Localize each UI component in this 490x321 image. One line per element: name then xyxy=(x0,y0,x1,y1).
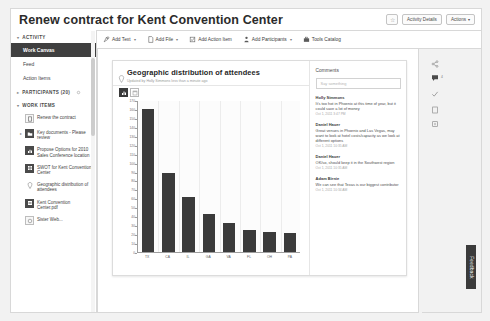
x-axis-tick-label: CA xyxy=(157,255,177,259)
chart-title: Geographic distribution of attendees xyxy=(127,68,303,77)
chart-bar[interactable] xyxy=(203,214,216,252)
chart-gridline xyxy=(281,101,282,252)
x-axis-tick-label: GA xyxy=(198,255,218,259)
comment-body: OK/so, should keep it in the Southwest r… xyxy=(316,160,401,165)
comment-author[interactable]: Daniel Hauer xyxy=(316,122,401,127)
work-item-row[interactable]: Kent Convention Center.pdf xyxy=(11,196,96,213)
sidebar-item-feed[interactable]: Feed xyxy=(11,57,96,71)
chart-bar[interactable] xyxy=(182,197,195,252)
divider xyxy=(113,85,310,86)
comment-input[interactable]: Say something xyxy=(316,78,401,89)
work-item-label: Propose Options for 2010 Sales Conferenc… xyxy=(37,146,92,157)
comment-icon[interactable] xyxy=(430,73,439,82)
chart-bar[interactable] xyxy=(243,230,256,252)
work-item-label: SWOT for Kent Convention Center xyxy=(37,164,92,175)
share-icon[interactable] xyxy=(430,59,439,68)
chart-bar[interactable] xyxy=(142,109,155,252)
chart-bar[interactable] xyxy=(284,233,297,252)
sidebar-section-work-items-label: WORK ITEMS xyxy=(22,103,55,108)
gear-icon[interactable] xyxy=(76,90,81,95)
work-item-row[interactable]: SWOT for Kent Convention Center xyxy=(11,161,96,178)
chart-card-header: Geographic distribution of attendees Upd… xyxy=(113,61,309,85)
chart-gridline xyxy=(199,101,200,252)
chart-bar-slot xyxy=(199,101,219,252)
bar-chart: 0102030405060708090100110120130140150160… xyxy=(119,99,304,271)
y-axis-tick-label: 30 xyxy=(131,224,135,228)
comment-timestamp: Oct 1, 2011 10:35 AM xyxy=(316,166,401,170)
chart-bar-slot xyxy=(138,101,158,252)
chart-bar-slot xyxy=(219,101,239,252)
comment-author[interactable]: Daniel Hauer xyxy=(316,154,401,159)
work-item-row[interactable]: Sister Web... xyxy=(11,213,96,228)
chart-gridline xyxy=(179,101,180,252)
comment-item: Daniel HauerGreat venues in Phoenix and … xyxy=(316,122,401,148)
y-axis-tick-label: 0 xyxy=(133,251,135,255)
sidebar-section-participants[interactable]: ▸ PARTICIPANTS (20) xyxy=(11,85,96,98)
toolbar-add-action-item[interactable]: Add Action Item xyxy=(189,36,232,43)
chart-bar-slot xyxy=(280,101,300,252)
add-text-icon xyxy=(103,36,110,43)
tools-catalog-icon xyxy=(303,36,310,43)
sidebar-item-work-canvas[interactable]: Work Canvas xyxy=(11,43,96,57)
title-bar-actions: ☆ Activity Details Actions ▾ xyxy=(386,14,475,25)
toolbar-add-participants[interactable]: Add Participants ▾ xyxy=(243,36,292,43)
y-axis-tick-label: 110 xyxy=(130,153,135,157)
toolbar-add-participants-label: Add Participants xyxy=(252,37,287,42)
sidebar-item-action-items[interactable]: Action Items xyxy=(11,71,96,85)
feedback-tab[interactable]: Feedback xyxy=(466,245,476,289)
x-axis-tick-label: VA xyxy=(219,255,239,259)
comment-author[interactable]: Adam Birnie xyxy=(316,176,401,181)
toolbar-add-action-item-label: Add Action Item xyxy=(198,37,232,42)
work-item-bullet[interactable]: ▸ xyxy=(19,129,22,138)
chevron-right-icon: ▸ xyxy=(17,90,19,95)
comments-panel: Comments Say something Holly SimmonsIt's… xyxy=(309,61,406,275)
y-axis-tick-label: 130 xyxy=(129,135,135,139)
work-item-row[interactable]: ▸ Key documents - Please review xyxy=(11,126,96,143)
chart-gridline xyxy=(158,101,159,252)
add-participants-icon xyxy=(243,36,250,43)
check-icon[interactable] xyxy=(430,89,439,98)
x-axis-labels: TXCAILGAVAFLOHPA xyxy=(137,255,300,259)
chevron-down-icon: ▾ xyxy=(17,103,19,108)
table-view-button[interactable] xyxy=(130,88,139,97)
chart-gridline xyxy=(220,101,221,252)
y-axis-tick-label: 80 xyxy=(131,179,135,183)
chart-bar[interactable] xyxy=(263,232,276,252)
work-item-row[interactable]: Geographic distribution of attendees xyxy=(11,178,96,195)
y-axis-tick-label: 40 xyxy=(131,215,135,219)
sidebar-scrollbar-thumb[interactable] xyxy=(91,58,95,136)
y-axis-tick-label: 60 xyxy=(131,197,135,201)
work-item-label: Key documents - Please review xyxy=(37,129,92,140)
y-axis-tick-label: 20 xyxy=(131,233,135,237)
info-icon[interactable] xyxy=(430,119,439,128)
chevron-down-icon: ▾ xyxy=(176,37,178,42)
chart-bar[interactable] xyxy=(162,173,175,252)
work-item-label: Geographic distribution of attendees xyxy=(37,181,92,192)
work-item-label: Renew the contract xyxy=(37,114,76,120)
activity-details-button[interactable]: Activity Details xyxy=(402,14,442,25)
document-icon[interactable] xyxy=(430,105,439,114)
chart-gridline xyxy=(260,101,261,252)
sidebar-section-activity[interactable]: ▾ ACTIVITY xyxy=(11,30,96,43)
chart-bar[interactable] xyxy=(223,223,236,253)
x-axis-tick-label: FL xyxy=(239,255,259,259)
toolbar-add-file-label: Add File xyxy=(156,37,174,42)
y-axis-tick-label: 160 xyxy=(129,108,135,112)
comment-body: We can see that Texas is our biggest con… xyxy=(316,182,401,187)
bar-chart-view-button[interactable] xyxy=(119,88,128,97)
application-window: Renew contract for Kent Convention Cente… xyxy=(0,0,490,321)
sidebar-section-work-items[interactable]: ▾ WORK ITEMS xyxy=(11,98,96,111)
toolbar-tools-catalog[interactable]: Tools Catalog xyxy=(303,36,341,43)
star-icon[interactable]: ☆ xyxy=(386,14,398,25)
work-item-row[interactable]: Renew the contract xyxy=(11,111,96,126)
y-axis-tick-label: 100 xyxy=(129,162,135,166)
toolbar-add-text[interactable]: Add Text ▾ xyxy=(103,36,136,43)
y-axis-tick-label: 50 xyxy=(131,206,135,210)
work-item-row[interactable]: Propose Options for 2010 Sales Conferenc… xyxy=(11,143,96,160)
chart-plot-area xyxy=(137,101,300,253)
chevron-down-icon: ▾ xyxy=(17,35,19,40)
actions-button[interactable]: Actions ▾ xyxy=(446,14,475,25)
link-icon xyxy=(25,216,34,225)
comment-author[interactable]: Holly Simmons xyxy=(316,95,401,100)
toolbar-add-file[interactable]: Add File ▾ xyxy=(147,36,179,43)
